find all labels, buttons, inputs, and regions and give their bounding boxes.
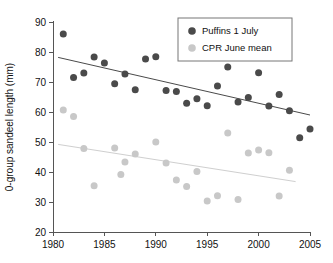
x-tick-label: 1995 — [196, 239, 219, 250]
data-point — [60, 31, 67, 38]
data-point — [286, 167, 293, 174]
y-tick-label: 70 — [35, 77, 47, 88]
data-point — [60, 106, 67, 113]
data-point — [204, 198, 211, 205]
legend-marker — [188, 27, 196, 35]
data-point — [286, 107, 293, 114]
trend-lines — [58, 57, 310, 181]
legend-marker — [188, 44, 196, 52]
data-point — [80, 70, 87, 77]
y-tick-label: 20 — [35, 227, 47, 238]
data-point — [91, 54, 98, 61]
data-point — [296, 134, 303, 141]
y-tick-label: 80 — [35, 47, 47, 58]
data-point — [214, 192, 221, 199]
data-point — [80, 145, 87, 152]
x-tick-label: 1980 — [42, 239, 65, 250]
x-axis-ticks: 198019851990199520002005 — [42, 232, 322, 250]
x-tick-label: 1990 — [145, 239, 168, 250]
legend-label: CPR June mean — [202, 42, 272, 53]
data-point — [276, 193, 283, 200]
y-tick-label: 30 — [35, 197, 47, 208]
data-point — [204, 102, 211, 109]
scatter-plot: 2030405060708090 19801985199019952000200… — [0, 0, 333, 263]
data-point — [152, 139, 159, 146]
y-tick-label: 90 — [35, 17, 47, 28]
data-point — [265, 149, 272, 156]
data-point — [70, 74, 77, 81]
data-point — [111, 80, 118, 87]
data-point — [193, 95, 200, 102]
data-point — [121, 159, 128, 166]
data-point — [101, 60, 108, 67]
data-point — [276, 91, 283, 98]
data-point — [121, 70, 128, 77]
data-point — [235, 196, 242, 203]
data-point — [132, 86, 139, 93]
data-point — [224, 64, 231, 71]
data-point — [173, 177, 180, 184]
legend-label: Puffins 1 July — [202, 25, 259, 36]
x-tick-label: 2000 — [247, 239, 270, 250]
data-point — [183, 100, 190, 107]
data-point — [163, 160, 170, 167]
x-tick-label: 2005 — [299, 239, 322, 250]
data-point — [117, 171, 124, 178]
x-tick-label: 1985 — [93, 239, 116, 250]
y-tick-label: 50 — [35, 137, 47, 148]
data-point — [307, 126, 314, 133]
data-point — [91, 182, 98, 189]
data-point — [214, 82, 221, 89]
chart-container: 2030405060708090 19801985199019952000200… — [0, 0, 333, 263]
data-point — [163, 87, 170, 94]
y-tick-label: 40 — [35, 167, 47, 178]
data-point — [245, 150, 252, 157]
data-point — [235, 99, 242, 106]
data-point — [245, 94, 252, 101]
y-tick-label: 60 — [35, 107, 47, 118]
data-point — [265, 103, 272, 110]
data-point — [142, 55, 149, 62]
data-point — [193, 168, 200, 175]
data-point — [183, 183, 190, 190]
data-point — [152, 53, 159, 60]
data-point — [70, 113, 77, 120]
data-point — [173, 88, 180, 95]
data-point — [132, 151, 139, 158]
chart-legend: Puffins 1 JulyCPR June mean — [178, 18, 292, 61]
data-point — [224, 130, 231, 137]
y-axis-ticks: 2030405060708090 — [35, 17, 53, 238]
data-point — [255, 69, 262, 76]
y-axis-title: 0-group sandeel length (mm) — [4, 63, 15, 191]
data-point — [111, 145, 118, 152]
series-cpr-june-mean-points — [60, 106, 293, 204]
data-point — [255, 147, 262, 154]
